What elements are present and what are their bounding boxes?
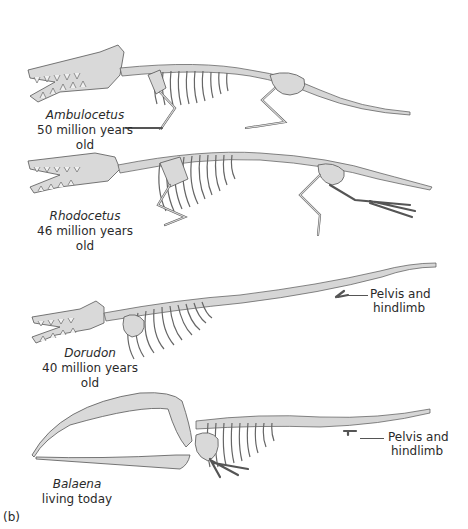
panel-label: (b) [3,510,20,524]
callout-balaena-pelvis: Pelvis and hindlimb [388,430,449,458]
genus-name: Balaena [32,477,122,492]
callout-dorudon-pelvis: Pelvis and hindlimb [370,287,431,315]
vestigial-pelvis-icon [336,291,348,297]
genus-name: Dorudon [40,346,140,361]
genus-name: Rhodocetus [30,209,140,224]
callout-line-1: Pelvis and [388,430,449,444]
callout-line-2: hindlimb [388,444,449,458]
callout-line-1: Pelvis and [370,287,431,301]
leader-line [348,295,368,296]
genus-name: Ambulocetus [30,108,140,123]
age-text: living today [32,492,122,507]
age-text: 46 million years old [30,224,140,254]
vestigial-pelvis-icon [344,431,356,435]
specimen-label-rhodocetus: Rhodocetus 46 million years old [30,209,140,254]
specimen-label-balaena: Balaena living today [32,477,122,507]
leader-line [360,438,384,439]
whale-evolution-figure: Ambulocetus 50 million years old Rhodoce… [0,0,468,529]
callout-line-2: hindlimb [370,301,431,315]
